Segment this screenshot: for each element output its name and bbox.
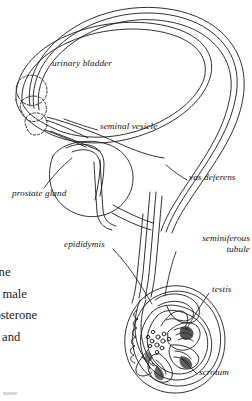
scan-artifact	[3, 392, 17, 395]
label-testis: testis	[212, 284, 232, 294]
cropped-body-text: none ult male stosterone m, and	[0, 262, 76, 348]
body-text-line-1: none	[0, 262, 76, 284]
urethra-shape	[47, 117, 164, 230]
spermatic-cord-shape	[132, 192, 162, 303]
label-seminiferous-tubule-line1: seminiferous	[202, 233, 250, 243]
body-text-line-2: ult male	[0, 284, 76, 306]
label-vas-deferens: vas deferens	[189, 172, 236, 182]
label-seminiferous-tubule-line2: tubule	[226, 244, 250, 254]
label-seminal-vesicle: seminal vesicle	[100, 121, 157, 131]
label-urinary-bladder: urinary bladder	[52, 58, 112, 68]
label-scrotum: scrotum	[199, 367, 229, 377]
body-text-line-4: m, and	[0, 327, 76, 349]
label-seminiferous-tubule: seminiferous tubule	[178, 233, 250, 255]
label-prostate-gland: prostate gland	[12, 188, 66, 198]
body-text-line-3: stosterone	[0, 305, 76, 327]
label-epididymis: epididymis	[64, 239, 105, 249]
